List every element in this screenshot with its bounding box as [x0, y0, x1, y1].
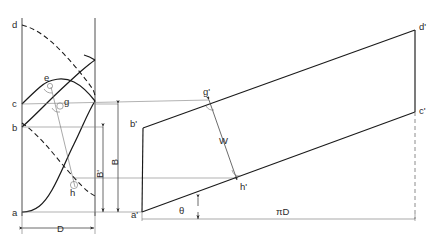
label-d-prime: d' [419, 21, 426, 32]
dimension-label-D: D [57, 223, 64, 234]
label-d: d [12, 19, 17, 30]
label-e: e [44, 72, 49, 83]
development-parallelogram [142, 30, 415, 212]
label-b-prime: b' [130, 118, 137, 129]
helix-development-svg: d c b a e g h a' b' c' d' g' h' D B B' W… [0, 0, 437, 248]
label-b: b [12, 122, 17, 133]
dimension-label-piD: πD [276, 206, 290, 217]
label-c: c [12, 98, 17, 109]
dimension-label-theta: θ [179, 205, 184, 216]
label-g: g [64, 96, 69, 107]
label-g-prime: g' [203, 86, 210, 97]
label-a: a [12, 207, 18, 218]
label-h-prime: h' [240, 181, 247, 192]
dimension-label-B: B [109, 159, 120, 165]
label-h: h [70, 187, 75, 198]
dimension-label-W: W [219, 135, 228, 146]
label-a-prime: a' [131, 209, 138, 220]
diagram-canvas: d c b a e g h a' b' c' d' g' h' D B B' W… [0, 0, 437, 248]
projection-lines [22, 100, 238, 212]
dimension-label-B-prime: B' [94, 170, 105, 178]
label-c-prime: c' [419, 105, 426, 116]
